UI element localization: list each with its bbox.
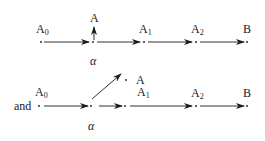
bottom-label-a1: A1: [137, 85, 150, 100]
top-point-alpha: [92, 41, 94, 43]
bottom-diagram: and A0 A A1 A2 B α: [14, 73, 251, 133]
top-label-alpha: α: [90, 54, 97, 68]
top-label-a1: A1: [139, 22, 152, 37]
diagram-canvas: A0 A A1 A2 B α and A0 A A1 A2 B α: [0, 0, 265, 141]
top-diagram: A0 A A1 A2 B α: [36, 11, 251, 68]
top-label-a0: A0: [36, 22, 49, 37]
top-label-a2: A2: [191, 22, 204, 37]
top-point-a1: [143, 41, 145, 43]
bottom-point-a1: [124, 105, 126, 107]
top-point-a2: [195, 41, 197, 43]
bottom-point-alpha: [90, 105, 92, 107]
bottom-arrow-alpha-a: [92, 74, 121, 99]
bottom-label-a2: A2: [191, 86, 204, 101]
bottom-label-alpha: α: [88, 119, 95, 133]
top-label-a: A: [90, 11, 99, 25]
bottom-point-a: [125, 79, 127, 81]
bottom-label-b: B: [243, 86, 251, 100]
bottom-point-a0: [38, 105, 40, 107]
bottom-label-a0: A0: [35, 85, 48, 100]
top-point-b: [246, 41, 248, 43]
top-point-a0: [40, 41, 42, 43]
connector-word-and: and: [14, 99, 31, 113]
bottom-point-b: [246, 105, 248, 107]
top-label-b: B: [243, 22, 251, 36]
bottom-point-a2: [195, 105, 197, 107]
